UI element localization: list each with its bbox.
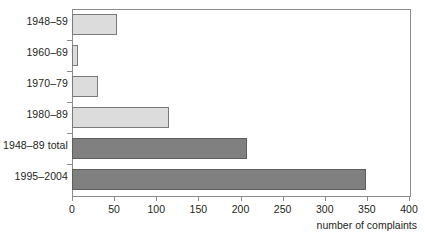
x-axis-tick-label-2: 100 [147,203,165,215]
x-axis-tick-label-4: 200 [232,203,250,215]
x-axis-tick-5 [283,196,284,201]
bar-row-4 [0,133,425,164]
bar-row-1 [0,40,425,71]
x-axis-tick-label-3: 150 [190,203,208,215]
bar-1980-89[interactable] [72,107,169,128]
bar-row-2 [0,71,425,102]
x-axis-tick-6 [325,196,326,201]
x-axis-tick-label-0: 0 [69,203,75,215]
bar-row-0 [0,9,425,40]
bar-1948-59[interactable] [72,14,117,35]
x-axis-tick-label-6: 300 [316,203,334,215]
bar-chart: 1948–59 1960–69 1970–79 1980–89 1948–89 … [0,0,425,238]
x-axis-tick-2 [156,196,157,201]
x-axis-tick-label-5: 250 [274,203,292,215]
x-axis-tick-0 [72,196,73,201]
x-axis-tick-8 [409,196,410,201]
x-axis-tick-label-1: 50 [108,203,120,215]
bar-row-5 [0,164,425,195]
bar-row-3 [0,102,425,133]
x-axis-tick-4 [241,196,242,201]
bar-1995-2004[interactable] [72,169,366,190]
x-axis-tick-label-7: 350 [358,203,376,215]
bar-1970-79[interactable] [72,76,98,97]
bar-1948-89-total[interactable] [72,138,247,159]
x-axis-tick-1 [114,196,115,201]
bar-1960-69[interactable] [72,45,78,66]
x-axis-tick-label-8: 400 [400,203,418,215]
x-axis-tick-7 [367,196,368,201]
x-axis-tick-3 [198,196,199,201]
x-axis-title: number of complaints [317,219,417,231]
